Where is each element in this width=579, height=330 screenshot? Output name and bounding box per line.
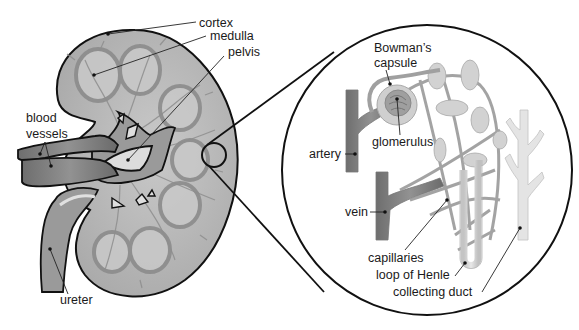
label-vein: vein [345, 205, 368, 219]
nephron-inset: Bowman’s capsule glomerulus artery vein … [282, 25, 572, 315]
label-ureter: ureter [60, 293, 93, 307]
label-medulla: medulla [210, 29, 254, 43]
label-blood-vessels-line2: vessels [26, 127, 68, 141]
label-collecting-duct: collecting duct [393, 285, 473, 299]
label-bowmans-capsule-line1: Bowman’s [374, 41, 431, 55]
label-artery: artery [309, 147, 342, 161]
label-blood-vessels-line1: blood [26, 111, 57, 125]
label-cortex: cortex [199, 16, 234, 30]
label-glomerulus: glomerulus [372, 135, 433, 149]
label-pelvis: pelvis [228, 45, 260, 59]
kidney-nephron-diagram: Bowman’s capsule glomerulus artery vein … [0, 0, 579, 330]
label-capillaries: capillaries [368, 251, 424, 265]
label-loop-of-henle: loop of Henle [376, 268, 450, 282]
kidney [18, 30, 238, 297]
label-bowmans-capsule-line2: capsule [374, 56, 417, 70]
